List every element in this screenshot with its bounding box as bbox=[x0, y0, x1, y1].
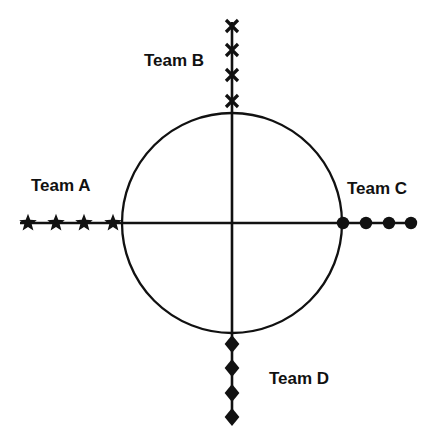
data-point-team-a-2 bbox=[47, 214, 65, 231]
data-point-team-c-1 bbox=[337, 217, 349, 229]
team-c-label: Team C bbox=[347, 180, 407, 197]
diagram-canvas bbox=[0, 0, 431, 440]
data-point-team-c-3 bbox=[383, 217, 395, 229]
data-point-team-d-1 bbox=[225, 335, 240, 353]
data-point-team-d-2 bbox=[225, 359, 240, 377]
team-b-label: Team B bbox=[144, 52, 204, 69]
data-point-team-c-2 bbox=[360, 217, 372, 229]
data-point-team-c-4 bbox=[405, 217, 417, 229]
data-point-team-a-1 bbox=[19, 214, 37, 231]
data-point-team-d-4 bbox=[225, 408, 240, 426]
team-a-label: Team A bbox=[31, 177, 91, 194]
data-point-team-a-3 bbox=[75, 214, 93, 231]
team-d-label: Team D bbox=[269, 370, 329, 387]
data-point-team-d-3 bbox=[225, 384, 240, 402]
team-axis-diagram: Team A Team B Team C Team D bbox=[0, 0, 431, 440]
data-point-team-a-4 bbox=[104, 214, 122, 231]
